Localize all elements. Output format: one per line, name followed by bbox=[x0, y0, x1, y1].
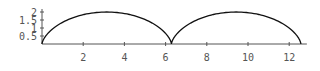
x-tick-label: 12 bbox=[283, 52, 295, 63]
x-tick-label: 6 bbox=[163, 52, 169, 63]
cycloid-curve bbox=[42, 12, 301, 44]
x-tick-label: 10 bbox=[242, 52, 254, 63]
y-tick-label: 2 bbox=[31, 7, 37, 18]
x-ticks: 24681012 bbox=[80, 42, 295, 63]
y-ticks: 0.511.52 bbox=[19, 7, 44, 42]
axes bbox=[42, 9, 307, 44]
cycloid-chart: 24681012 0.511.52 bbox=[0, 0, 320, 71]
x-tick-label: 8 bbox=[204, 52, 210, 63]
x-tick-label: 4 bbox=[121, 52, 127, 63]
x-tick-label: 2 bbox=[80, 52, 86, 63]
